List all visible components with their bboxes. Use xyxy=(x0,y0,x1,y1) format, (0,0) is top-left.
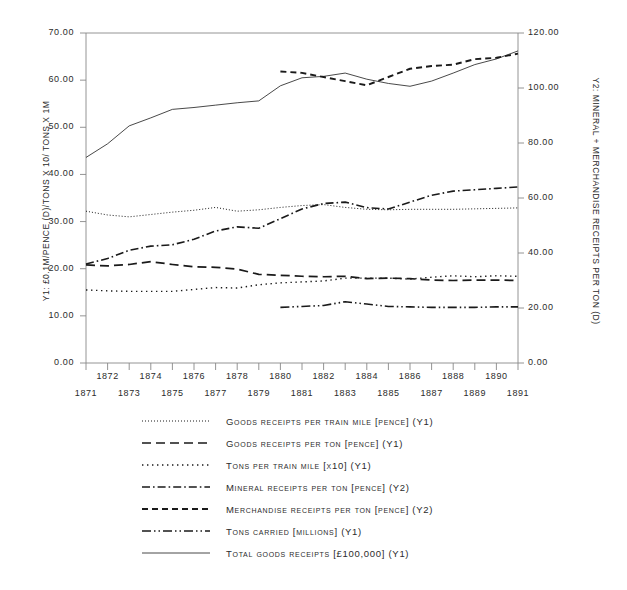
legend-line-sample-icon xyxy=(140,414,212,428)
x-tick-label: 1877 xyxy=(199,388,233,398)
legend-item[interactable]: Merchandise receipts per ton [pence] (Y2… xyxy=(140,498,570,520)
legend-line-sample-icon xyxy=(140,436,212,450)
legend-item[interactable]: Tons per train mile [x10] (Y1) xyxy=(140,454,570,476)
y1-tick-label: 20.00 xyxy=(32,263,74,273)
series-line-2 xyxy=(86,276,518,292)
legend-item-label: Tons per train mile [x10] (Y1) xyxy=(226,460,371,471)
x-tick-label: 1880 xyxy=(263,371,297,381)
y2-tick-label: 20.00 xyxy=(528,302,574,312)
series-layer xyxy=(86,51,518,307)
x-tick-label: 1876 xyxy=(177,371,211,381)
x-tick-label: 1891 xyxy=(501,388,535,398)
x-tick-label: 1875 xyxy=(155,388,189,398)
y1-tick-label: 0.00 xyxy=(32,357,74,367)
x-tick-label: 1890 xyxy=(479,371,513,381)
plot-frame xyxy=(80,33,524,370)
x-tick-label: 1887 xyxy=(415,388,449,398)
y1-tick-label: 60.00 xyxy=(32,74,74,84)
y2-tick-label: 80.00 xyxy=(528,137,574,147)
legend-item-label: Tons carried [millions] (Y1) xyxy=(226,526,362,537)
legend-item-label: Goods receipts per train mile [pence] (Y… xyxy=(226,416,433,427)
x-tick-label: 1884 xyxy=(350,371,384,381)
series-line-1 xyxy=(86,262,518,281)
legend-item-label: Mineral receipts per ton [pence] (Y2) xyxy=(226,482,410,493)
x-tick-label: 1872 xyxy=(91,371,125,381)
legend-item[interactable]: Goods receipts per ton [pence] (Y1) xyxy=(140,432,570,454)
series-line-6 xyxy=(86,51,518,158)
legend-item[interactable]: Total goods receipts [£100,000] (Y1) xyxy=(140,542,570,564)
chart-figure: Y1: £0.1M/PENCE (D)/TONS X 10/ TONS X 1M… xyxy=(0,0,627,590)
x-tick-label: 1886 xyxy=(393,371,427,381)
x-tick-label: 1883 xyxy=(328,388,362,398)
y1-tick-label: 70.00 xyxy=(32,27,74,37)
series-line-3 xyxy=(86,187,518,264)
y1-tick-label: 30.00 xyxy=(32,216,74,226)
x-tick-label: 1878 xyxy=(220,371,254,381)
legend-item[interactable]: Tons carried [millions] (Y1) xyxy=(140,520,570,542)
series-line-4 xyxy=(280,54,518,86)
y2-tick-label: 100.00 xyxy=(528,82,574,92)
x-tick-label: 1879 xyxy=(242,388,276,398)
legend-line-sample-icon xyxy=(140,480,212,494)
series-line-0 xyxy=(86,205,518,217)
x-tick-label: 1889 xyxy=(458,388,492,398)
y2-tick-label: 120.00 xyxy=(528,27,574,37)
legend-line-sample-icon xyxy=(140,502,212,516)
legend-line-sample-icon xyxy=(140,546,212,560)
y2-tick-label: 60.00 xyxy=(528,192,574,202)
legend-line-sample-icon xyxy=(140,524,212,538)
legend-item-label: Goods receipts per ton [pence] (Y1) xyxy=(226,438,403,449)
x-tick-label: 1873 xyxy=(112,388,146,398)
x-tick-label: 1881 xyxy=(285,388,319,398)
y2-tick-label: 40.00 xyxy=(528,247,574,257)
legend-item[interactable]: Goods receipts per train mile [pence] (Y… xyxy=(140,410,570,432)
y1-tick-label: 10.00 xyxy=(32,310,74,320)
x-tick-label: 1882 xyxy=(307,371,341,381)
x-tick-label: 1874 xyxy=(134,371,168,381)
legend-item-label: Total goods receipts [£100,000] (Y1) xyxy=(226,548,409,559)
legend-item[interactable]: Mineral receipts per ton [pence] (Y2) xyxy=(140,476,570,498)
x-tick-label: 1871 xyxy=(69,388,103,398)
y1-tick-label: 50.00 xyxy=(32,121,74,131)
chart-legend: Goods receipts per train mile [pence] (Y… xyxy=(140,410,570,564)
y2-tick-label: 0.00 xyxy=(528,357,574,367)
y1-tick-label: 40.00 xyxy=(32,168,74,178)
legend-item-label: Merchandise receipts per ton [pence] (Y2… xyxy=(226,504,433,515)
legend-line-sample-icon xyxy=(140,458,212,472)
y1-axis-title: Y1: £0.1M/PENCE (D)/TONS X 10/ TONS X 1M xyxy=(41,51,51,351)
y2-axis-title: Y2: MINERAL + MERCHANDISE RECEIPTS PER T… xyxy=(591,51,601,351)
x-tick-label: 1885 xyxy=(371,388,405,398)
x-tick-label: 1888 xyxy=(436,371,470,381)
series-line-5 xyxy=(280,302,518,308)
